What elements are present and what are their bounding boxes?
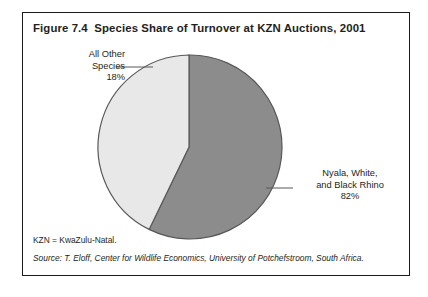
footnote-abbreviation: KZN = KwaZulu-Natal. bbox=[33, 235, 117, 245]
pie-label-other-species: All Other Species 18% bbox=[55, 49, 125, 84]
figure-frame: Figure 7.4 Species Share of Turnover at … bbox=[22, 12, 410, 276]
footnote-source: Source: T. Eloff, Center for Wildlife Ec… bbox=[33, 253, 364, 263]
pie-label-rhino: Nyala, White, and Black Rhino 82% bbox=[295, 168, 405, 203]
